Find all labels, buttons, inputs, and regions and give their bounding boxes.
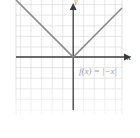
function-equation-label: f(x) = |−x| — [79, 65, 117, 77]
graph-figure: y x f(x) = |−x| — [0, 0, 140, 138]
x-axis-label: x — [127, 52, 131, 62]
grid-fade-overlay — [0, 78, 140, 138]
y-axis-label: y — [74, 0, 78, 6]
coordinate-plane — [0, 0, 140, 138]
function-curve — [16, 0, 122, 57]
